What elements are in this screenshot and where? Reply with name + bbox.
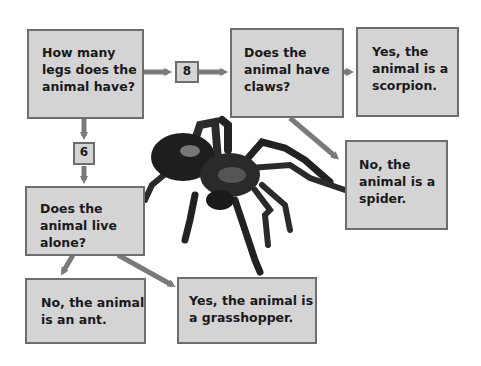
node-claws-question: Does the animal have claws? xyxy=(230,28,344,118)
node-grasshopper-result: Yes, the animal is a grasshopper. xyxy=(177,277,317,344)
node-alone-question-text: Does the animal live alone? xyxy=(40,200,130,251)
node-spider-result-text: No, the animal is a spider. xyxy=(359,156,444,207)
node-scorpion-result: Yes, the animal is a scorpion. xyxy=(356,27,459,117)
branch-label-6: 6 xyxy=(73,142,95,165)
node-alone-question: Does the animal live alone? xyxy=(25,186,145,256)
node-legs-question: How many legs does the animal have? xyxy=(27,29,144,119)
branch-label-8: 8 xyxy=(175,61,199,83)
node-ant-result-text: No, the animal is an ant. xyxy=(41,294,146,328)
node-ant-result: No, the animal is an ant. xyxy=(25,278,146,344)
node-grasshopper-result-text: Yes, the animal is a grasshopper. xyxy=(189,292,314,326)
node-spider-result: No, the animal is a spider. xyxy=(345,140,448,230)
node-scorpion-result-text: Yes, the animal is a scorpion. xyxy=(372,43,457,94)
node-claws-question-text: Does the animal have claws? xyxy=(244,44,339,95)
node-legs-question-text: How many legs does the animal have? xyxy=(42,44,137,95)
